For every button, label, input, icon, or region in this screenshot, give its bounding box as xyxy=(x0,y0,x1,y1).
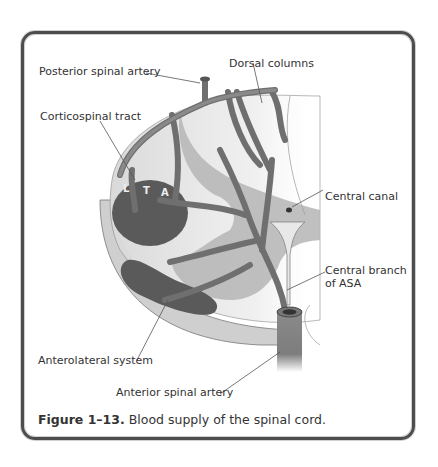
label-anterior-spinal-artery: Anterior spinal artery xyxy=(116,386,233,399)
label-dorsal-columns: Dorsal columns xyxy=(229,57,314,70)
label-posterior-spinal-artery: Posterior spinal artery xyxy=(39,65,161,78)
figure-caption: Figure 1–13. Blood supply of the spinal … xyxy=(38,412,326,427)
label-corticospinal-tract: Corticospinal tract xyxy=(40,110,141,123)
central-canal xyxy=(286,208,292,213)
figure-caption-text: Blood supply of the spinal cord. xyxy=(129,412,326,427)
label-central-canal: Central canal xyxy=(325,190,398,203)
figure-number: Figure 1–13. xyxy=(38,412,125,427)
tract-letter-a: A xyxy=(161,186,169,199)
label-anterolateral-system: Anterolateral system xyxy=(38,354,153,367)
label-central-branch: Central branchof ASA xyxy=(325,264,407,290)
anterior-spinal-artery xyxy=(277,312,302,372)
tract-letter-t: T xyxy=(143,184,150,197)
tract-letter-l: L xyxy=(123,182,129,195)
